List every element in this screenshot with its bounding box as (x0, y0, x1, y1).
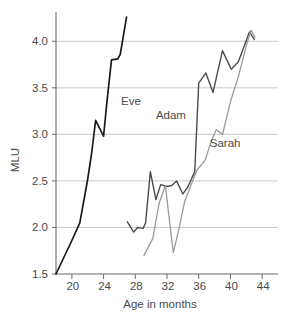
x-tick-label-24: 24 (98, 280, 111, 292)
series-line-adam (127, 32, 254, 232)
y-tick-labels-group: 1.52.02.53.03.54.0 (32, 35, 48, 280)
x-tick-label-32: 32 (162, 280, 175, 292)
x-axis-title: Age in months (123, 298, 197, 310)
x-tick-label-36: 36 (193, 280, 206, 292)
y-tick-label-3.5: 3.5 (32, 82, 48, 94)
x-tick-label-20: 20 (66, 280, 79, 292)
tickmarks-group (52, 41, 262, 279)
x-tick-label-44: 44 (257, 280, 270, 292)
x-tick-label-28: 28 (130, 280, 143, 292)
y-tick-label-3: 3.0 (32, 128, 48, 140)
y-tick-label-1.5: 1.5 (32, 268, 48, 280)
series-label-eve: Eve (121, 95, 141, 107)
series-annotations-group: EveAdamSarah (121, 95, 240, 150)
series-label-sarah: Sarah (210, 137, 241, 149)
x-tick-label-40: 40 (225, 280, 238, 292)
series-label-adam: Adam (156, 109, 186, 121)
y-tick-label-2.5: 2.5 (32, 175, 48, 187)
y-axis-title: MLU (9, 148, 21, 172)
chart-plot-area: 1.52.02.53.03.54.0 20242832364044 EveAda… (0, 0, 285, 317)
mlu-age-line-chart: 1.52.02.53.03.54.0 20242832364044 EveAda… (0, 0, 285, 317)
x-tick-labels-group: 20242832364044 (66, 280, 270, 292)
y-tick-label-2: 2.0 (32, 221, 48, 233)
y-tick-label-4: 4.0 (32, 35, 48, 47)
series-line-eve (56, 17, 127, 274)
